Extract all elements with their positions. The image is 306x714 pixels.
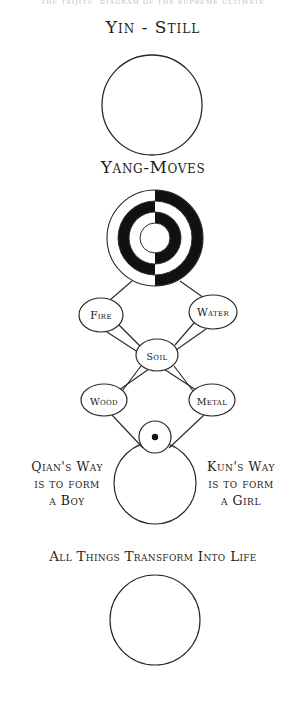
transform-circle bbox=[110, 575, 200, 665]
element-node-metal[interactable]: Metal bbox=[189, 384, 235, 416]
element-label-water: Water bbox=[197, 306, 229, 318]
taijitu-diagram-page: THE TAIJITU DIAGRAM OF THE SUPREME ULTIM… bbox=[0, 0, 306, 714]
diagram-canvas: Fire Water Soil Wood Metal bbox=[0, 0, 306, 714]
link-fire-soil bbox=[119, 325, 140, 346]
five-element-nodes: Fire Water Soil Wood Metal bbox=[79, 295, 237, 416]
element-label-wood: Wood bbox=[90, 396, 118, 407]
kun-way-label: Kun's Wayis to forma Girl bbox=[182, 459, 300, 510]
seed-dot bbox=[152, 434, 158, 440]
link-water-soil bbox=[175, 323, 194, 345]
element-label-metal: Metal bbox=[197, 396, 227, 407]
element-node-water[interactable]: Water bbox=[189, 295, 237, 329]
link-taiji-water bbox=[180, 281, 204, 298]
element-label-fire: Fire bbox=[90, 309, 112, 321]
link-metal-seed bbox=[169, 415, 204, 448]
yin-still-label: Yin - Still bbox=[0, 18, 306, 38]
link-wood-soil bbox=[122, 366, 141, 391]
element-node-fire[interactable]: Fire bbox=[79, 298, 123, 332]
link-taiji-fire bbox=[110, 281, 132, 300]
taiji-rings bbox=[107, 190, 203, 286]
yang-moves-label: Yang-Moves bbox=[0, 158, 306, 178]
element-node-soil[interactable]: Soil bbox=[136, 339, 178, 371]
element-label-soil: Soil bbox=[147, 351, 168, 362]
qian-way-label: Qian's Wayis to forma Boy bbox=[8, 459, 126, 510]
element-node-wood[interactable]: Wood bbox=[81, 384, 127, 416]
link-wood-seed bbox=[112, 415, 143, 448]
yin-still-circle bbox=[102, 55, 202, 155]
link-metal-soil bbox=[174, 366, 193, 391]
all-things-transform-label: All Things Transform Into Life bbox=[0, 549, 306, 565]
